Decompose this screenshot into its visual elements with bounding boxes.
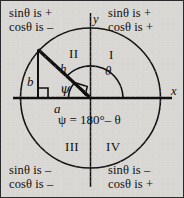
quadrant-3-sin-text: sinθ is – xyxy=(9,164,53,178)
psi-theta-relation-formula: ψ = 180°– θ xyxy=(58,112,121,128)
quadrant-3-sign-label: sinθ is – cosθ is – xyxy=(9,164,53,191)
quadrant-4-numeral: IV xyxy=(106,139,120,155)
trigonometry-unit-circle-figure: sinθ is + cosθ is – sinθ is + cosθ is + … xyxy=(0,0,184,198)
hypotenuse-label: h xyxy=(60,61,67,77)
quadrant-2-sign-label: sinθ is + cosθ is – xyxy=(9,7,53,34)
theta-angle-label: θ xyxy=(105,63,111,79)
quadrant-2-numeral: II xyxy=(69,46,78,62)
quadrant-1-cos-text: cosθ is + xyxy=(108,21,153,35)
quadrant-2-sin-text: sinθ is + xyxy=(9,7,53,21)
quadrant-1-numeral: I xyxy=(109,47,114,63)
quadrant-3-cos-text: cosθ is – xyxy=(9,178,53,192)
quadrant-1-sin-text: sinθ is + xyxy=(108,7,153,21)
quadrant-3-numeral: III xyxy=(65,139,79,155)
terminal-ray-arrowhead xyxy=(74,82,87,95)
opposite-leg-label: b xyxy=(27,74,34,90)
x-axis-label: x xyxy=(171,84,177,99)
quadrant-2-cos-text: cosθ is – xyxy=(9,21,53,35)
quadrant-4-sin-text: sinθ is – xyxy=(108,164,153,178)
y-axis-label: y xyxy=(93,12,99,27)
quadrant-4-cos-text: cosθ is + xyxy=(108,178,153,192)
quadrant-4-sign-label: sinθ is – cosθ is + xyxy=(108,164,153,191)
quadrant-1-sign-label: sinθ is + cosθ is + xyxy=(108,7,153,34)
right-angle-marker xyxy=(38,88,48,98)
psi-angle-label: ψ xyxy=(60,81,70,96)
theta-arc xyxy=(68,66,123,98)
